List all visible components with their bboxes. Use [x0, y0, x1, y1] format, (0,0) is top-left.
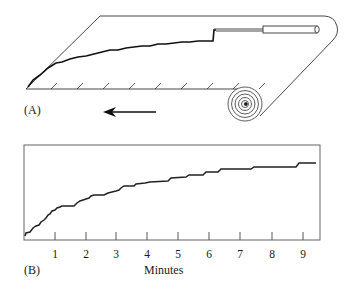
- cumulative-record-line: [25, 163, 316, 236]
- pen-arm: [214, 29, 263, 31]
- time-marks: [51, 83, 265, 89]
- x-tick-label: 3: [109, 248, 123, 260]
- chart-frame: [24, 145, 320, 240]
- left-arrow-icon: [103, 107, 156, 117]
- x-tick-label: 5: [171, 248, 185, 260]
- x-tick-label: 4: [140, 248, 154, 260]
- paper-roll-icon: [228, 87, 262, 121]
- x-tick-label: 9: [296, 248, 310, 260]
- x-tick-label: 1: [48, 248, 62, 260]
- diagram-canvas: [0, 0, 356, 288]
- x-axis-ticks: [55, 232, 303, 240]
- pen-trace: [28, 30, 216, 87]
- x-axis-title: Minutes: [144, 264, 183, 276]
- x-tick-label: 2: [79, 248, 93, 260]
- x-tick-label: 7: [233, 248, 247, 260]
- pen-holder-icon: [263, 26, 319, 33]
- panel-a-label: (A): [24, 104, 41, 116]
- x-tick-label: 8: [265, 248, 279, 260]
- x-tick-label: 6: [202, 248, 216, 260]
- panel-b-label: (B): [24, 264, 40, 276]
